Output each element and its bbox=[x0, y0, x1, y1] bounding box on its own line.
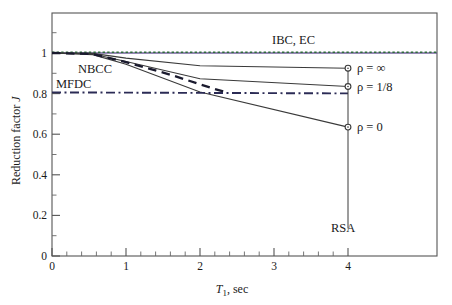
figure-container: 1 0.8 0.6 0.4 0.2 0 0 1 2 3 4 Reduction … bbox=[0, 0, 452, 305]
y-tick-label: 0.6 bbox=[33, 128, 48, 140]
x-tick-label: 3 bbox=[271, 260, 277, 272]
svg-text:Reduction factor J: Reduction factor J bbox=[9, 96, 23, 185]
y-tick-label: 0.2 bbox=[33, 209, 48, 221]
series-label-rho-eighth: ρ = 1/8 bbox=[357, 80, 393, 94]
annotation-rsa: RSA bbox=[331, 221, 355, 235]
y-tick-label: 1 bbox=[41, 47, 47, 59]
y-tick-label: 0 bbox=[41, 250, 47, 262]
endpoint-dot-rho-eighth bbox=[347, 86, 349, 88]
annotation-ibc-ec: IBC, EC bbox=[272, 33, 315, 47]
y-tick-label: 0.8 bbox=[33, 88, 48, 100]
endpoint-dot-rho-zero bbox=[347, 126, 349, 128]
chart-background bbox=[0, 0, 452, 305]
endpoint-dot-rho-infinity bbox=[347, 67, 349, 69]
series-label-rho-infinity: ρ = ∞ bbox=[357, 61, 386, 75]
x-tick-label: 4 bbox=[345, 260, 351, 272]
x-tick-label: 0 bbox=[49, 260, 55, 272]
x-axis-title-rest: , sec bbox=[227, 282, 248, 296]
series-ibc-ec bbox=[52, 52, 437, 53]
x-tick-label: 2 bbox=[197, 260, 203, 272]
annotation-mfdc: MFDC bbox=[56, 77, 91, 91]
x-tick-label: 1 bbox=[123, 260, 129, 272]
annotation-nbcc: NBCC bbox=[78, 62, 112, 76]
reduction-factor-chart: 1 0.8 0.6 0.4 0.2 0 0 1 2 3 4 Reduction … bbox=[0, 0, 452, 305]
y-tick-label: 0.4 bbox=[33, 169, 48, 181]
svg-text:T1, sec: T1, sec bbox=[216, 282, 249, 298]
y-axis-title-symbol: J bbox=[9, 96, 23, 102]
series-label-rho-zero: ρ = 0 bbox=[357, 120, 383, 134]
x-axis-title: T1, sec bbox=[216, 282, 249, 298]
y-axis-title-text: Reduction factor bbox=[9, 102, 23, 185]
y-axis-title: Reduction factor J bbox=[9, 96, 23, 185]
